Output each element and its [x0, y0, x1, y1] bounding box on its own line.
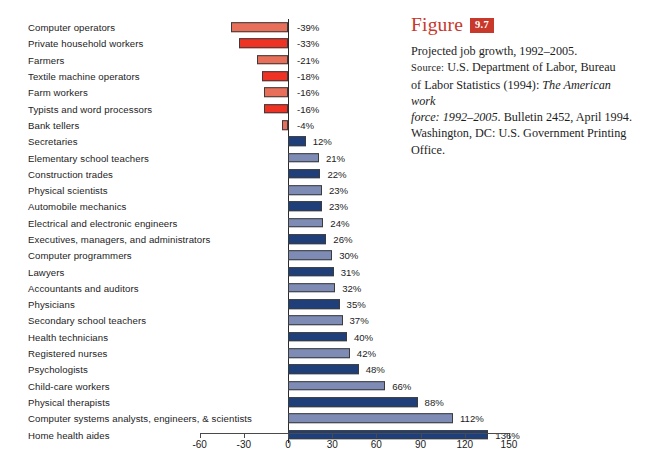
bar: [264, 88, 288, 98]
x-axis-tick-label: 120: [456, 439, 473, 451]
bar: [288, 267, 334, 277]
bar: [288, 332, 347, 342]
category-label-cell: Electrical and electronic engineers: [28, 215, 280, 231]
bar-row: Lawyers31%: [0, 263, 395, 279]
category-label: Electrical and electronic engineers: [28, 217, 177, 228]
bar-value-label: 40%: [354, 331, 373, 342]
bar: [262, 71, 289, 81]
bar-value-label: -16%: [297, 103, 319, 114]
bar-row: Bank tellers-4%: [0, 117, 395, 133]
x-axis-tick: [288, 433, 289, 438]
bar-row: Secondary school teachers37%: [0, 312, 395, 328]
bar-value-label: -33%: [297, 38, 319, 49]
bar-row: Health technicians40%: [0, 329, 395, 345]
bar: [288, 413, 453, 423]
bar-plot-cell: [288, 361, 359, 377]
caption-line-6: Office.: [411, 142, 633, 158]
category-label-cell: Executives, managers, and administrators: [28, 231, 280, 247]
category-label-cell: Physical therapists: [28, 394, 280, 410]
caption-line-title: Projected job growth, 1992–2005.: [411, 43, 633, 59]
bar-row: Physical scientists23%: [0, 182, 395, 198]
bar-value-label: 24%: [330, 217, 349, 228]
bar: [288, 234, 326, 244]
bar-plot-cell: [288, 345, 350, 361]
x-axis-tick-label: 0: [285, 439, 291, 451]
x-axis-tick-label: 150: [501, 439, 518, 451]
x-axis-tick-label: 60: [371, 439, 382, 451]
bar-plot-cell: [288, 182, 322, 198]
category-label: Computer programmers: [28, 250, 132, 261]
x-axis-tick-label: -60: [192, 439, 206, 451]
category-label: Computer systems analysts, engineers, & …: [28, 413, 252, 424]
category-label: Bank tellers: [28, 119, 79, 130]
category-label-cell: Psychologists: [28, 361, 280, 377]
bar-plot-cell: [288, 166, 320, 182]
bar-row: Physical therapists88%: [0, 394, 395, 410]
category-label: Health technicians: [28, 331, 108, 342]
category-label: Textile machine operators: [28, 71, 140, 82]
bar-row: Computer programmers30%: [0, 247, 395, 263]
bar-plot-cell: [288, 215, 323, 231]
category-label: Elementary school teachers: [28, 152, 149, 163]
caption-line-4: force: 1992–2005. Bulletin 2452, April 1…: [411, 109, 633, 125]
bar-plot-cell: [288, 280, 335, 296]
bar-row: Computer operators-39%: [0, 19, 395, 35]
bar-value-label: 32%: [342, 282, 361, 293]
category-label-cell: Elementary school teachers: [28, 149, 280, 165]
category-label: Private household workers: [28, 38, 143, 49]
category-label: Computer operators: [28, 22, 115, 33]
bar-row: Private household workers-33%: [0, 35, 395, 51]
bar-value-label: 23%: [329, 201, 348, 212]
bar: [288, 169, 320, 179]
bar: [288, 153, 319, 163]
caption-line4-rest: . Bulletin 2452, April 1994.: [498, 110, 632, 124]
category-label: Child-care workers: [28, 380, 110, 391]
category-label-cell: Physicians: [28, 296, 280, 312]
category-label: Typists and word processors: [28, 103, 152, 114]
bar-value-label: -39%: [297, 22, 319, 33]
category-label: Registered nurses: [28, 348, 108, 359]
bar: [288, 365, 359, 375]
category-label: Secondary school teachers: [28, 315, 146, 326]
bar-row: Executives, managers, and administrators…: [0, 231, 395, 247]
bar-row: Psychologists48%: [0, 361, 395, 377]
bar: [288, 348, 350, 358]
bar-value-label: 22%: [327, 168, 346, 179]
category-label-cell: Secondary school teachers: [28, 312, 280, 328]
category-label-cell: Typists and word processors: [28, 100, 280, 116]
bar-row: Farmers-21%: [0, 52, 395, 68]
category-label: Executives, managers, and administrators: [28, 234, 210, 245]
bar-row: Accountants and auditors32%: [0, 280, 395, 296]
bar-value-label: 42%: [357, 348, 376, 359]
bar-plot-cell: [288, 296, 340, 312]
category-label: Physical therapists: [28, 396, 110, 407]
bar: [288, 218, 323, 228]
x-axis-tick: [376, 433, 377, 438]
caption-line3-a: of Labor Statistics (1994):: [411, 78, 542, 92]
bar: [288, 251, 332, 261]
category-label-cell: Registered nurses: [28, 345, 280, 361]
category-label-cell: Textile machine operators: [28, 68, 280, 84]
figure-caption: Figure 9.7 Projected job growth, 1992–20…: [411, 14, 633, 158]
bar-row: Physicians35%: [0, 296, 395, 312]
bar: [282, 120, 288, 130]
x-axis-tick: [244, 433, 245, 438]
category-label-cell: Accountants and auditors: [28, 280, 280, 296]
x-axis: -60-300306090120150: [0, 433, 395, 463]
bar-value-label: 66%: [392, 380, 411, 391]
bar-value-label: 37%: [350, 315, 369, 326]
bar: [264, 104, 288, 114]
x-axis-tick: [421, 433, 422, 438]
figure-label: Figure: [411, 14, 463, 36]
category-label: Physicians: [28, 299, 75, 310]
x-axis-tick-label: 30: [327, 439, 338, 451]
category-label: Lawyers: [28, 266, 64, 277]
category-label-cell: Lawyers: [28, 263, 280, 279]
category-label-cell: Computer programmers: [28, 247, 280, 263]
category-label-cell: Health technicians: [28, 329, 280, 345]
bar-value-label: 88%: [425, 396, 444, 407]
bar-value-label: -21%: [297, 54, 319, 65]
bar-value-label: 35%: [347, 299, 366, 310]
category-label: Accountants and auditors: [28, 282, 139, 293]
category-label-cell: Bank tellers: [28, 117, 280, 133]
